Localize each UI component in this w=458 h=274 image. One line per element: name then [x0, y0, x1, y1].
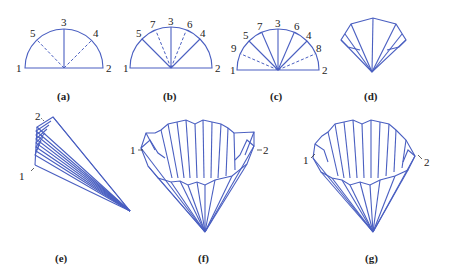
caption-e: (e)	[55, 252, 68, 265]
label-3: 3	[275, 17, 281, 29]
label-1: 1	[16, 62, 22, 74]
label-2: 2	[322, 64, 328, 76]
label-5: 5	[30, 27, 36, 39]
label-4: 4	[200, 27, 206, 39]
label-7: 7	[150, 18, 156, 30]
label-1: 1	[123, 62, 129, 74]
label-2: 2	[424, 156, 430, 168]
label-6: 6	[187, 18, 193, 30]
panel-c: 1 2 3 4 5 6 7 8 9 (c)	[230, 17, 328, 103]
label-2: 2	[106, 62, 112, 74]
label-1: 1	[19, 170, 25, 182]
label-4: 4	[306, 29, 312, 41]
label-1: 1	[230, 64, 236, 76]
label-2: 2	[35, 110, 41, 122]
caption-b: (b)	[163, 90, 177, 103]
label-1: 1	[303, 154, 309, 166]
panel-b: 1 2 3 4 5 6 7 (b)	[123, 15, 221, 103]
caption-d: (d)	[364, 90, 378, 103]
label-7: 7	[257, 20, 263, 32]
panel-e: 2 1 (e)	[19, 110, 130, 265]
label-2: 2	[263, 144, 269, 156]
caption-a: (a)	[57, 90, 70, 103]
label-5: 5	[243, 29, 249, 41]
label-5: 5	[136, 27, 142, 39]
panel-f: 1 2 (f)	[130, 120, 269, 265]
panel-a: 1 2 3 4 5 (a)	[16, 16, 112, 103]
label-8: 8	[316, 42, 322, 54]
caption-f: (f)	[198, 252, 209, 265]
label-2: 2	[215, 62, 221, 74]
label-9: 9	[231, 42, 237, 54]
label-6: 6	[294, 20, 300, 32]
label-1: 1	[130, 144, 136, 156]
panel-g: 1 2 (g)	[303, 120, 430, 265]
label-3: 3	[168, 15, 174, 27]
panel-d: (d)	[341, 18, 406, 103]
label-3: 3	[61, 16, 67, 28]
caption-c: (c)	[270, 90, 283, 103]
caption-g: (g)	[365, 252, 378, 265]
label-4: 4	[93, 27, 99, 39]
origami-fold-diagram: 1 2 3 4 5 (a) 1 2 3 4 5 6 7 (b) 1 2 3 4	[0, 0, 458, 274]
